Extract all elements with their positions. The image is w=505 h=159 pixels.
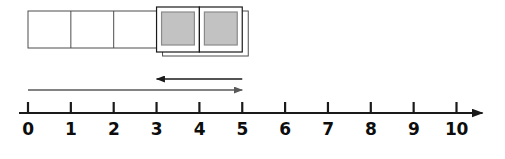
tick-label-5: 5 bbox=[236, 120, 248, 138]
tick-label-3: 3 bbox=[151, 120, 163, 138]
tick-label-4: 4 bbox=[194, 120, 206, 138]
shaded-block-fill bbox=[204, 12, 237, 45]
unit-block-strip bbox=[28, 11, 157, 48]
tick-label-9: 9 bbox=[408, 120, 420, 138]
tick-label-1: 1 bbox=[65, 120, 77, 138]
number-line-diagram: 012345678910 bbox=[0, 0, 505, 159]
tick-label-2: 2 bbox=[108, 120, 120, 138]
tick-label-10: 10 bbox=[445, 120, 468, 138]
tick-label-8: 8 bbox=[365, 120, 377, 138]
tick-label-0: 0 bbox=[22, 120, 34, 138]
tick-label-6: 6 bbox=[279, 120, 291, 138]
shaded-block-fill bbox=[162, 12, 195, 45]
tick-label-7: 7 bbox=[322, 120, 334, 138]
